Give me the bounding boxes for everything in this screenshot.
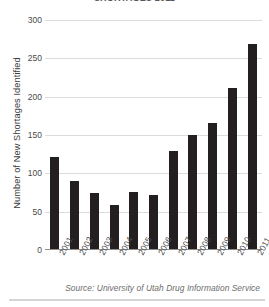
bar <box>248 44 257 249</box>
y-tick-label: 50 <box>2 207 42 217</box>
y-tick-label: 0 <box>2 245 42 255</box>
x-axis-tick-labels: 2001200220032004200520062007200820092010… <box>45 252 262 284</box>
bar <box>228 88 237 249</box>
bar <box>169 151 178 249</box>
y-tick-label: 200 <box>2 92 42 102</box>
y-tick-label: 300 <box>2 15 42 25</box>
chart-title: SHORTAGES 2011 <box>0 0 269 2</box>
plot-area <box>45 20 262 250</box>
y-axis-tick-labels: 050100150200250300 <box>0 20 42 250</box>
bar <box>50 157 59 249</box>
bar-series <box>45 20 262 250</box>
bottom-divider <box>9 299 265 301</box>
y-tick-label: 100 <box>2 168 42 178</box>
y-tick-label: 150 <box>2 130 42 140</box>
y-tick-label: 250 <box>2 53 42 63</box>
bar <box>208 123 217 250</box>
source-note: Source: University of Utah Drug Informat… <box>65 283 260 293</box>
bar <box>188 135 197 249</box>
chart-page: SHORTAGES 2011 Number of New Shortages I… <box>0 0 269 307</box>
